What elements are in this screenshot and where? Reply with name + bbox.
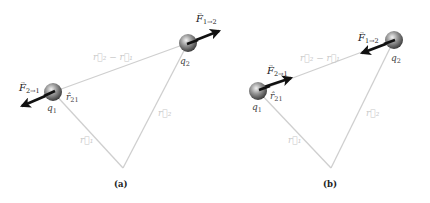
label-r21-hat: r̂21 xyxy=(66,92,79,104)
panel-b: F2→1 → F1→2 → q1 q2 r̂21 r⃗₂ − r⃗₁ r⃗₁ r… xyxy=(249,29,403,189)
charge-sphere-q1 xyxy=(249,82,267,100)
label-r1: r⃗₁ xyxy=(288,135,301,145)
label-r2-minus-r1: r⃗₂ − r⃗₁ xyxy=(300,53,340,63)
label-r1: r⃗₁ xyxy=(80,135,93,145)
vector-arrow-glyph: → xyxy=(268,62,274,68)
label-r21-hat: r̂21 xyxy=(270,91,283,103)
coulomb-force-diagram: F2→1 → F1→2 → q1 q2 r̂21 r⃗₂ − r⃗₁ r⃗₁ r… xyxy=(0,0,430,203)
label-q2: q2 xyxy=(180,56,190,68)
caption-b: (b) xyxy=(323,179,337,189)
label-r2: r⃗₂ xyxy=(158,108,172,118)
vector-arrow-glyph: → xyxy=(20,79,26,85)
panel-a: F2→1 → F1→2 → q1 q2 r̂21 r⃗₂ − r⃗₁ r⃗₁ r… xyxy=(18,10,219,189)
label-q1: q1 xyxy=(252,102,262,114)
label-q2: q2 xyxy=(391,53,401,65)
vector-r1 xyxy=(53,92,123,168)
label-q1: q1 xyxy=(47,103,57,115)
label-r2-minus-r1: r⃗₂ − r⃗₁ xyxy=(93,52,133,62)
vector-arrow-glyph: → xyxy=(197,10,203,16)
label-r2: r⃗₂ xyxy=(366,108,380,118)
vector-arrow-glyph: → xyxy=(359,29,365,35)
vector-r2 xyxy=(331,40,394,168)
vector-r1 xyxy=(258,91,331,168)
caption-a: (a) xyxy=(114,179,128,189)
vector-r2-minus-r1 xyxy=(53,43,188,92)
